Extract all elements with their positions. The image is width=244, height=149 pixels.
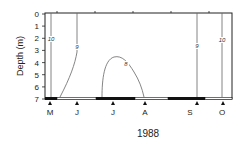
x-axis-year-label: 1988: [137, 128, 160, 139]
y-tick-1: 1: [35, 22, 40, 31]
y-tick-2: 2: [35, 34, 40, 43]
month-label-may: M: [47, 108, 54, 117]
month-label-june: J: [75, 108, 79, 117]
y-axis-title: Depth (m): [15, 36, 25, 76]
y-tick-6: 6: [35, 83, 40, 92]
y-tick-0: 0: [35, 10, 40, 19]
y-tick-4: 4: [35, 59, 40, 68]
plot-frame: [45, 13, 232, 99]
contour-9-left: [60, 13, 77, 97]
month-label-july: J: [111, 108, 115, 117]
month-label-october: O: [219, 108, 225, 117]
y-tick-5: 5: [35, 71, 40, 80]
y-tick-7: 7: [35, 95, 40, 104]
contour-lines: [51, 13, 222, 97]
month-label-september: S: [187, 108, 192, 117]
month-label-august: A: [142, 108, 148, 117]
contour-label-10-right: 10: [219, 37, 226, 43]
bottom-bar: [45, 97, 232, 100]
contour-label-10-left: 10: [48, 36, 55, 42]
contour-chart: 0 1 2 3 4 5 6 7 Depth (m) 10 9 8 9 10: [0, 0, 244, 149]
month-markers: [48, 101, 225, 105]
y-tick-3: 3: [35, 46, 40, 55]
